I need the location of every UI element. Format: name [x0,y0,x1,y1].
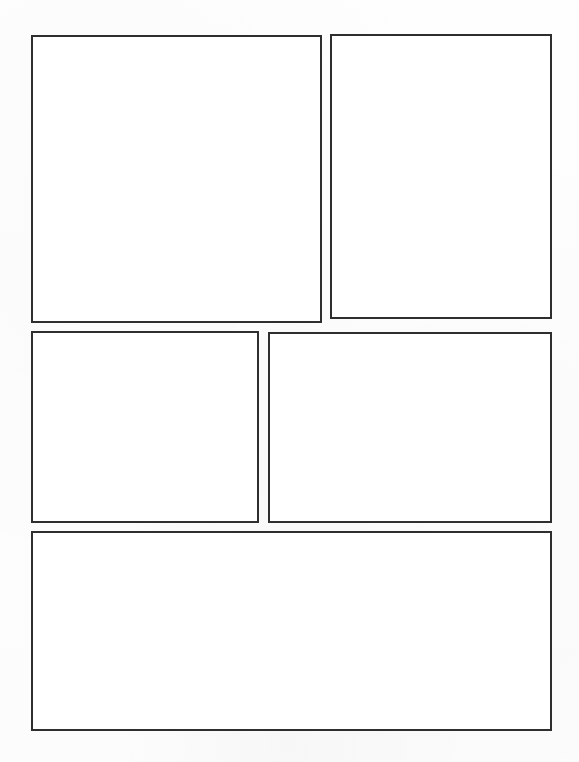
panel-content-area [332,36,550,317]
comic-panel-top-right[interactable] [330,34,552,319]
panel-content-area [33,333,257,521]
comic-page [0,0,579,762]
comic-panel-bottom-wide[interactable] [31,531,552,731]
panel-content-area [33,37,320,321]
panel-content-area [270,334,550,521]
comic-panel-middle-right[interactable] [268,332,552,523]
comic-panel-top-left[interactable] [31,35,322,323]
comic-panel-middle-left[interactable] [31,331,259,523]
panel-content-area [33,533,550,729]
